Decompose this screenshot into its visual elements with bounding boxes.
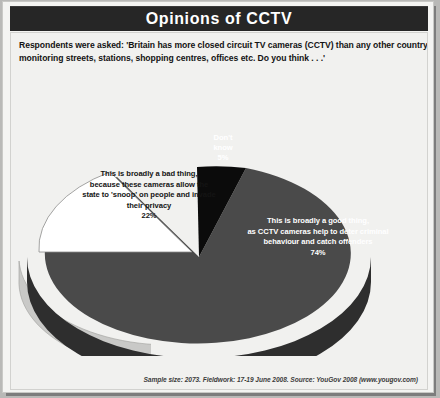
infographic-card: Opinions of CCTV Respondents were asked:… — [2, 1, 434, 393]
chart-panel: Respondents were asked: 'Britain has mor… — [10, 32, 428, 390]
pie-chart — [11, 71, 427, 356]
screenshot-root: Opinions of CCTV Respondents were asked:… — [0, 0, 440, 398]
title-banner: Opinions of CCTV — [10, 6, 428, 31]
question-text: Respondents were asked: 'Britain has mor… — [19, 39, 421, 65]
question-line-1: Respondents were asked: 'Britain has mor… — [19, 39, 421, 52]
page-title: Opinions of CCTV — [146, 11, 292, 27]
source-note: Sample size: 2073. Fieldwork: 17-19 June… — [144, 376, 418, 383]
question-line-2: monitoring streets, stations, shopping c… — [19, 52, 421, 65]
pie-chart-svg — [11, 71, 427, 356]
slice-bad-top — [39, 172, 192, 252]
